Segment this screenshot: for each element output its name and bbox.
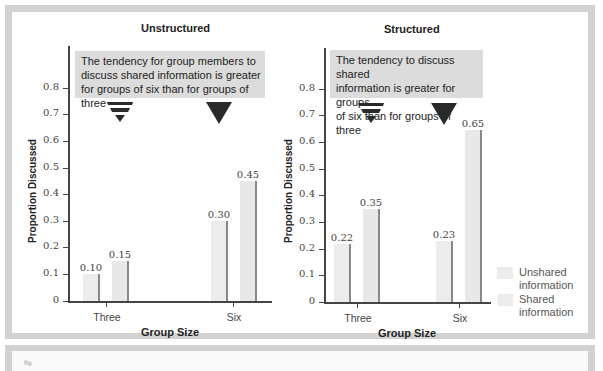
x-axis-label: Group Size <box>357 327 457 339</box>
y-tick <box>319 89 324 90</box>
striped-triangle-icon <box>358 103 384 123</box>
y-tick <box>63 247 68 248</box>
y-tick-label: 0.5 <box>35 161 59 172</box>
bar-six-unshared <box>211 221 228 301</box>
y-axis-label: Proportion Discussed <box>27 139 38 243</box>
y-tick <box>319 169 324 170</box>
y-tick <box>319 249 324 250</box>
x-axis <box>68 301 272 303</box>
x-tick <box>233 302 234 307</box>
y-tick <box>63 194 68 195</box>
solid-triangle-icon <box>206 102 232 124</box>
bar-three-unshared <box>83 274 100 301</box>
legend-label: Unshared information <box>519 266 589 292</box>
y-tick <box>319 302 324 303</box>
y-tick-label: 0 <box>291 295 315 306</box>
footer-strip: fig <box>5 345 595 371</box>
y-tick-label: 0.6 <box>291 135 315 146</box>
bar-three-unshared <box>334 244 351 302</box>
striped-triangle-icon <box>107 102 133 122</box>
legend-label-line: Unshared <box>519 266 589 279</box>
callout-line: The tendency for group members to <box>81 54 261 68</box>
chart-title-unstructured: Unstructured <box>141 22 210 34</box>
y-tick-label: 0.1 <box>291 268 315 279</box>
y-tick <box>319 115 324 116</box>
x-tick <box>357 303 358 308</box>
y-tick-label: 0.2 <box>35 240 59 251</box>
x-axis-label: Group Size <box>120 326 220 338</box>
bar-six-shared <box>240 181 257 301</box>
legend-label-line: Shared <box>519 293 589 306</box>
x-category-label: Six <box>435 312 485 324</box>
y-tick-label: 0.6 <box>35 134 59 145</box>
y-tick-label: 0.4 <box>35 187 59 198</box>
bar-six-unshared <box>436 241 453 302</box>
y-tick <box>63 301 68 302</box>
solid-triangle-icon <box>431 103 457 125</box>
legend-swatch <box>497 267 513 279</box>
chart-title-structured: Structured <box>384 23 440 35</box>
y-tick <box>63 88 68 89</box>
bar-six-shared <box>465 130 482 302</box>
bar-value-label: 0.30 <box>204 209 234 220</box>
y-tick <box>63 221 68 222</box>
y-tick <box>63 141 68 142</box>
y-tick <box>319 195 324 196</box>
y-tick-label: 0 <box>35 294 59 305</box>
y-tick-label: 0.8 <box>35 81 59 92</box>
bar-three-shared <box>112 261 129 301</box>
x-axis <box>324 302 491 304</box>
y-tick <box>319 275 324 276</box>
bar-value-label: 0.10 <box>76 262 106 273</box>
y-tick <box>319 142 324 143</box>
legend-label-line: information <box>519 306 589 319</box>
bar-value-label: 0.15 <box>105 249 135 260</box>
x-category-label: Three <box>82 311 132 323</box>
y-axis <box>324 48 326 303</box>
legend-label: Shared information <box>519 293 589 319</box>
y-axis <box>68 46 70 302</box>
y-tick-label: 0.7 <box>35 107 59 118</box>
x-tick <box>459 303 460 308</box>
bar-three-shared <box>363 209 380 302</box>
y-tick <box>63 114 68 115</box>
callout-line: discuss shared information is greater <box>81 68 261 82</box>
bar-value-label: 0.35 <box>356 197 386 208</box>
x-category-label: Three <box>333 312 383 324</box>
y-tick-label: 0.8 <box>291 82 315 93</box>
figure-mark-icon: fig <box>24 359 32 366</box>
bar-value-label: 0.45 <box>233 169 263 180</box>
callout-annotation: The tendency for group members to discus… <box>75 51 265 98</box>
legend-swatch <box>497 294 513 306</box>
legend-label-line: information <box>519 279 589 292</box>
y-tick-label: 0.5 <box>291 162 315 173</box>
callout-annotation: The tendency to discuss shared informati… <box>330 50 483 98</box>
y-tick <box>63 168 68 169</box>
y-tick-label: 0.4 <box>291 188 315 199</box>
x-category-label: Six <box>209 311 259 323</box>
callout-line: The tendency to discuss shared <box>336 53 479 81</box>
footer-body: fig <box>12 351 588 371</box>
y-tick <box>63 274 68 275</box>
y-tick-label: 0.2 <box>291 242 315 253</box>
y-tick-label: 0.7 <box>291 108 315 119</box>
bar-value-label: 0.23 <box>429 229 459 240</box>
y-tick-label: 0.1 <box>35 267 59 278</box>
y-tick <box>319 222 324 223</box>
y-tick-label: 0.3 <box>291 215 315 226</box>
y-tick-label: 0.3 <box>35 214 59 225</box>
x-tick <box>106 302 107 307</box>
bar-value-label: 0.22 <box>327 232 357 243</box>
y-axis-label: Proportion Discussed <box>283 139 294 243</box>
